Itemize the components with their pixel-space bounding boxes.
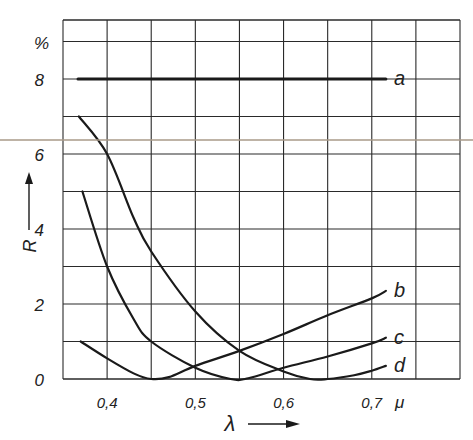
- y-axis-title: R: [20, 240, 40, 253]
- y-tick-label: 6: [35, 146, 45, 165]
- curve-label-d: d: [394, 354, 406, 376]
- y-tick-label: 4: [35, 221, 44, 240]
- y-tick-label: 2: [34, 296, 45, 315]
- y-unit-label: %: [34, 34, 49, 53]
- x-tick-label: 0,5: [185, 394, 207, 411]
- reflectance-chart: abcd02468%R0,40,50,60,7μλ: [0, 0, 473, 440]
- y-axis-arrow-icon: [25, 172, 33, 184]
- curve-label-b: b: [394, 279, 405, 301]
- x-axis-arrow-icon: [286, 420, 300, 428]
- x-unit-label: μ: [394, 393, 405, 412]
- curve-label-a: a: [394, 67, 405, 89]
- x-tick-label: 0,4: [97, 394, 118, 411]
- x-tick-label: 0,6: [273, 394, 295, 411]
- curve-d: [79, 117, 386, 380]
- curve-label-c: c: [394, 326, 404, 348]
- y-tick-label: 8: [35, 71, 45, 90]
- x-axis-title: λ: [224, 411, 236, 436]
- x-tick-label: 0,7: [361, 394, 383, 411]
- y-tick-label: 0: [35, 371, 45, 390]
